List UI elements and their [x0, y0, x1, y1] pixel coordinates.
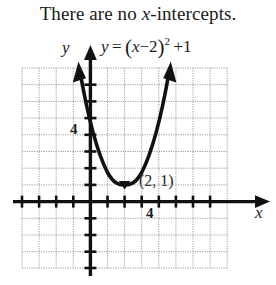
- grid-lines: [22, 68, 227, 268]
- curve-arrow-right: [163, 62, 176, 83]
- curve-arrow-left: [73, 62, 86, 83]
- figure-container: There are no x-intercepts. y = (x−2)2 +1…: [0, 0, 276, 285]
- x-axis: [13, 195, 270, 208]
- coordinate-plane: [0, 0, 276, 285]
- y-axis: [84, 45, 97, 276]
